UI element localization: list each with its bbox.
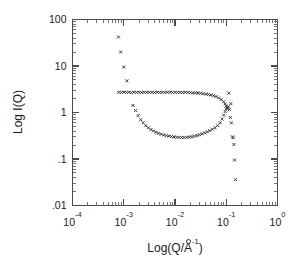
y-tick-label: 1 — [61, 106, 67, 118]
data-point — [134, 109, 137, 112]
data-point — [122, 66, 125, 69]
y-axis-title: Log I(Q) — [11, 90, 25, 134]
data-point — [219, 121, 222, 124]
data-point — [147, 126, 150, 129]
data-point — [221, 118, 224, 121]
series-3 — [227, 92, 237, 181]
series-2 — [131, 104, 228, 139]
plot-frame — [73, 20, 278, 206]
x-tick-label: 10-1 — [217, 210, 235, 228]
data-point — [117, 36, 120, 39]
data-point — [234, 178, 237, 181]
data-point — [117, 91, 120, 94]
data-point — [125, 79, 128, 82]
y-axis-tick-labels: .01.1110100 — [49, 13, 67, 211]
data-point — [119, 51, 122, 54]
axis-titles: Log I(Q) Log(Q/A-1) — [11, 90, 203, 255]
data-point — [232, 143, 235, 146]
data-point — [139, 118, 142, 121]
data-point — [162, 134, 165, 137]
data-point — [207, 93, 210, 96]
figure-container: .01.1110100 10-410-310-210-1100 Log I(Q)… — [0, 0, 304, 265]
x-axis-tick-labels: 10-410-310-210-1100 — [63, 210, 285, 228]
data-point — [216, 124, 219, 127]
y-tick-label: .1 — [58, 153, 67, 165]
axis-ticks — [73, 20, 278, 206]
y-tick-label: .01 — [52, 199, 67, 211]
x-axis-title: Log(Q/A-1) — [147, 236, 202, 255]
x-tick-label: 10-2 — [166, 210, 184, 228]
x-tick-label: 10-4 — [63, 210, 81, 228]
x-tick-label: 10-3 — [115, 210, 133, 228]
data-point — [232, 136, 235, 139]
plot-box — [73, 20, 278, 206]
data-point — [227, 92, 230, 95]
x-tick-label: 100 — [270, 210, 286, 228]
data-point — [131, 104, 134, 107]
y-tick-label: 10 — [55, 60, 67, 72]
data-markers — [117, 36, 237, 182]
data-point — [229, 102, 232, 105]
series-0 — [117, 36, 128, 83]
scatter-plot: .01.1110100 10-410-310-210-1100 Log I(Q)… — [0, 0, 304, 265]
data-point — [233, 159, 236, 162]
data-point — [142, 121, 145, 124]
data-point — [196, 134, 199, 137]
y-tick-label: 100 — [49, 13, 67, 25]
data-point — [230, 121, 233, 124]
data-point — [165, 134, 168, 137]
data-point — [209, 93, 212, 96]
data-point — [167, 135, 170, 138]
data-point — [229, 116, 232, 119]
data-point — [222, 114, 225, 117]
data-point — [137, 114, 140, 117]
data-point — [190, 135, 193, 138]
data-point — [204, 92, 207, 95]
data-point — [193, 135, 196, 138]
